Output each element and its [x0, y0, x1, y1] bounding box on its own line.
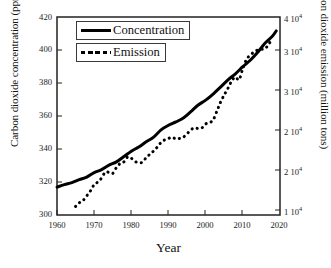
legend-label-concentration: Concentration	[111, 24, 184, 37]
legend-label-emission: Emission	[111, 46, 160, 59]
legend-item-emission: Emission	[76, 43, 166, 62]
legend-swatch-dashed-line-icon	[81, 51, 111, 54]
legend-swatch-solid-line-icon	[81, 29, 111, 32]
legend-item-concentration: Concentration	[76, 21, 190, 40]
